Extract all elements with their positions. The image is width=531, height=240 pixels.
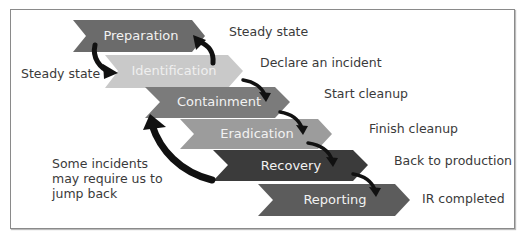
phase-label-eradication: Eradication [194,126,320,142]
note-reporting: IR completed [422,191,505,206]
note-recovery: Back to production [394,153,512,168]
phase-label-identification: Identification [118,63,230,79]
phase-label-reporting: Reporting [273,192,397,208]
note-jump-back: Some incidents may require us to jump ba… [52,156,172,201]
note-identification: Declare an incident [260,55,382,70]
note-preparation: Steady state [229,24,308,39]
phase-label-preparation: Preparation [86,28,196,44]
note-containment: Start cleanup [324,86,408,101]
phase-label-containment: Containment [160,94,278,110]
note-left-steady-state: Steady state [21,66,100,81]
phase-label-recovery: Recovery [228,158,354,174]
note-eradication: Finish cleanup [369,121,458,136]
